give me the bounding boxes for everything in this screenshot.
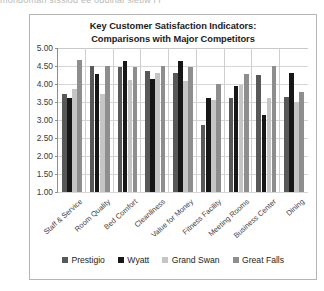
y-axis-tickmark xyxy=(55,192,58,193)
bar[interactable] xyxy=(161,66,166,192)
legend-label: Grand Swan xyxy=(172,255,220,265)
x-axis-tick-label: Dining xyxy=(285,197,307,218)
legend-swatch-icon xyxy=(118,257,124,263)
y-axis-labels: 5.004.504.003.503.002.502.001.501.00 xyxy=(30,48,56,198)
legend-label: Great Falls xyxy=(242,255,284,265)
y-axis-tick-label: 3.00 xyxy=(37,115,53,125)
bar[interactable] xyxy=(206,98,211,192)
bar[interactable] xyxy=(100,94,105,192)
legend-swatch-icon xyxy=(162,257,168,263)
bar[interactable] xyxy=(133,67,138,192)
bar[interactable] xyxy=(256,75,261,192)
y-axis-tick-label: 1.00 xyxy=(37,187,53,197)
bar[interactable] xyxy=(267,98,272,192)
x-axis-labels: Staff & ServiceRoom QualityBed ComfortCl… xyxy=(57,195,307,255)
y-axis-tick-label: 4.00 xyxy=(37,79,53,89)
bar[interactable] xyxy=(72,89,77,192)
chart-title: Key Customer Satisfaction Indicators: Co… xyxy=(30,15,316,45)
bar[interactable] xyxy=(77,60,82,192)
plot-area-wrapper: 5.004.504.003.503.002.502.001.501.00 Sta… xyxy=(30,48,316,260)
bar[interactable] xyxy=(188,67,193,192)
bar[interactable] xyxy=(62,94,67,192)
bar[interactable] xyxy=(239,85,244,192)
bar[interactable] xyxy=(234,86,239,192)
bar[interactable] xyxy=(123,61,128,192)
bar[interactable] xyxy=(105,66,110,192)
chart-legend: PrestigioWyattGrand SwanGreat Falls xyxy=(30,255,316,265)
chart-frame: Key Customer Satisfaction Indicators: Co… xyxy=(29,14,317,280)
legend-item[interactable]: Prestigio xyxy=(62,255,105,265)
bar[interactable] xyxy=(178,61,183,192)
legend-label: Wyatt xyxy=(127,255,149,265)
bar-group xyxy=(197,48,225,192)
bar-group xyxy=(280,48,308,192)
bar[interactable] xyxy=(272,66,277,192)
bar[interactable] xyxy=(284,97,289,192)
bar[interactable] xyxy=(67,98,72,192)
bar-group xyxy=(114,48,142,192)
bar[interactable] xyxy=(289,73,294,192)
chart-title-line-1: Key Customer Satisfaction Indicators: xyxy=(30,20,316,33)
bar[interactable] xyxy=(211,100,216,192)
bar-group xyxy=(225,48,253,192)
bar[interactable] xyxy=(95,74,100,192)
bar-group xyxy=(252,48,280,192)
bar[interactable] xyxy=(173,73,178,192)
bar[interactable] xyxy=(201,125,206,192)
bar[interactable] xyxy=(299,92,304,192)
bar[interactable] xyxy=(244,74,249,192)
bar[interactable] xyxy=(229,98,234,192)
chart-title-line-2: Comparisons with Major Competitors xyxy=(30,33,316,46)
y-axis-tick-label: 4.50 xyxy=(37,61,53,71)
bar[interactable] xyxy=(262,115,267,192)
legend-swatch-icon xyxy=(233,257,239,263)
bar-group xyxy=(141,48,169,192)
y-axis-tick-label: 2.50 xyxy=(37,133,53,143)
clipped-header-text: mondoman sissiod ee oddinal sietiw i i xyxy=(0,0,324,9)
bar-group xyxy=(169,48,197,192)
bar[interactable] xyxy=(128,80,133,192)
y-axis-tick-label: 3.50 xyxy=(37,97,53,107)
legend-item[interactable]: Wyatt xyxy=(118,255,149,265)
y-axis-tick-label: 2.00 xyxy=(37,151,53,161)
bar[interactable] xyxy=(155,73,160,192)
plot-area xyxy=(57,48,308,193)
bar[interactable] xyxy=(294,102,299,192)
bar-group xyxy=(86,48,114,192)
bar[interactable] xyxy=(183,81,188,192)
bar[interactable] xyxy=(216,84,221,192)
bar-groups xyxy=(58,48,308,192)
bar[interactable] xyxy=(145,71,150,192)
y-axis-tick-label: 1.50 xyxy=(37,169,53,179)
legend-item[interactable]: Great Falls xyxy=(233,255,285,265)
legend-item[interactable]: Grand Swan xyxy=(162,255,219,265)
bar[interactable] xyxy=(150,79,155,192)
gridline xyxy=(58,192,308,193)
bar[interactable] xyxy=(90,66,95,192)
legend-label: Prestigio xyxy=(71,255,104,265)
bar[interactable] xyxy=(118,67,123,192)
legend-swatch-icon xyxy=(62,257,68,263)
bar-group xyxy=(58,48,86,192)
y-axis-tick-label: 5.00 xyxy=(37,43,53,53)
